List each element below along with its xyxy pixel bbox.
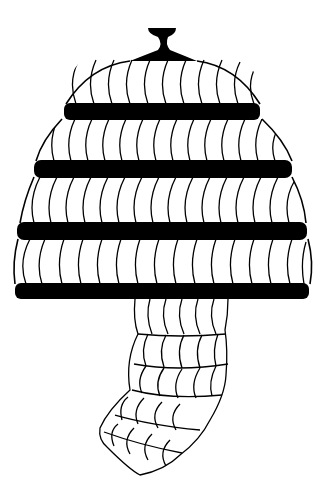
illustration: [0, 0, 328, 499]
cheek-guard: [100, 299, 228, 475]
helmet-knob: [130, 28, 197, 61]
helmet-drawing: [0, 0, 328, 499]
